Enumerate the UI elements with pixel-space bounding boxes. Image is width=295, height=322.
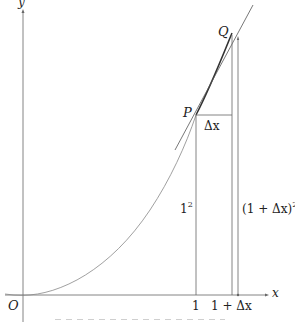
one-squared-exponent: 2 [188,200,193,209]
one-plus-dx-squared-exponent: 2 [292,200,295,209]
one-squared-base: 1 [180,202,188,216]
diagram-canvas [0,0,295,322]
x-tick-label-1: 1 [192,300,200,312]
measure-arrow-icon [237,36,239,40]
x-axis-label: x [272,287,279,299]
x-axis-arrow-icon [265,294,269,297]
measure-endpoint-dot [237,294,239,296]
point-q-label: Q [218,25,229,38]
parabola-curve [5,115,196,295]
y-axis-label: y [18,0,25,8]
parabola-curve-segment-pq [196,33,232,115]
truncated-caption [55,318,225,322]
one-plus-dx-squared-base: (1 + Δx) [242,202,292,216]
y-axis-arrow-icon [22,9,25,13]
delta-x-label: Δx [204,120,219,132]
origin-label: O [8,299,19,312]
one-squared-label: 12 [180,201,193,215]
x-tick-label-1-plus-dx: 1 + Δx [211,300,252,312]
point-p-label: P [183,106,192,119]
one-plus-dx-squared-label: (1 + Δx)2 [242,201,295,215]
